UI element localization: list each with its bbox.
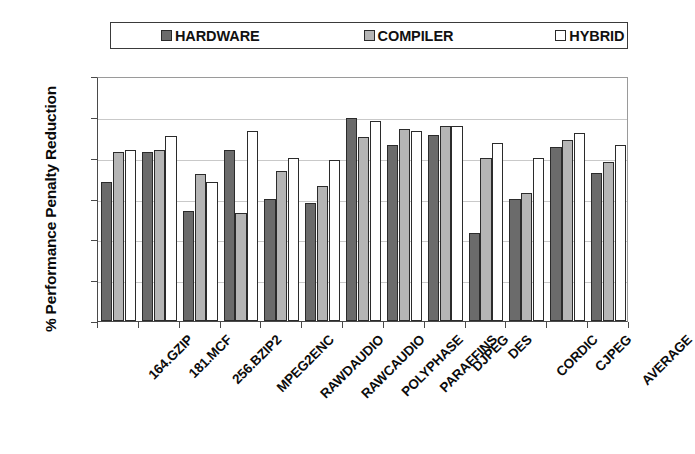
x-tick-mark (546, 322, 547, 328)
legend-entry-hybrid: HYBRID (555, 28, 624, 44)
bar-compiler-164-gzip (113, 152, 124, 321)
bar-compiler-paraffins (399, 129, 410, 321)
bar-hybrid-256-bzip2 (206, 182, 217, 321)
x-tick-label-des: DES (505, 332, 535, 362)
bar-hybrid-rawdaudio (288, 158, 299, 321)
bar-compiler-rawdaudio (276, 171, 287, 321)
y-axis-title: % Performance Penalty Reduction (42, 54, 60, 364)
bar-hybrid-181-mcf (165, 136, 176, 321)
legend-swatch-icon (364, 30, 375, 41)
bar-hybrid-cordic (533, 158, 544, 321)
bar-hardware-cordic (509, 199, 520, 322)
bar-compiler-des (480, 158, 491, 321)
x-tick-label-164-gzip: 164.GZIP (146, 332, 196, 382)
x-tick-label-256-bzip2: 256.BZIP2 (229, 332, 284, 387)
bar-hybrid-cjpeg (574, 133, 585, 321)
legend-swatch-icon (161, 30, 172, 41)
plot-area (97, 77, 628, 322)
x-tick-mark (424, 322, 425, 328)
bar-hardware-164-gzip (101, 182, 112, 321)
bar-compiler-average (603, 162, 614, 321)
bar-hardware-djpeg (428, 135, 439, 321)
legend-label: HYBRID (569, 28, 624, 44)
x-tick-label-cordic: CORDIC (553, 332, 600, 379)
legend-entry-hardware: HARDWARE (161, 28, 260, 44)
bar-hardware-rawcaudio (305, 203, 316, 321)
x-tick-mark (301, 322, 302, 328)
legend-label: COMPILER (378, 28, 454, 44)
bar-compiler-cjpeg (562, 140, 573, 321)
bar-hardware-average (591, 173, 602, 321)
x-tick-label-average: AVERAGE (638, 332, 694, 388)
bar-compiler-cordic (521, 193, 532, 321)
bar-compiler-rawcaudio (317, 186, 328, 321)
x-tick-mark (179, 322, 180, 328)
x-tick-mark (465, 322, 466, 328)
bar-hardware-181-mcf (142, 152, 153, 321)
x-tick-mark (138, 322, 139, 328)
bar-hardware-256-bzip2 (183, 211, 194, 321)
bar-compiler-polyphase (358, 137, 369, 321)
bar-hybrid-djpeg (451, 126, 462, 321)
chart-legend: HARDWARECOMPILERHYBRID (110, 22, 628, 49)
gridline (98, 119, 627, 120)
x-tick-label-cjpeg: CJPEG (592, 332, 634, 374)
bar-hardware-paraffins (387, 145, 398, 321)
bar-hybrid-polyphase (370, 121, 381, 321)
x-tick-mark (342, 322, 343, 328)
bar-hardware-polyphase (346, 118, 357, 321)
x-tick-mark (383, 322, 384, 328)
bar-hybrid-rawcaudio (329, 160, 340, 321)
bar-hardware-rawdaudio (264, 199, 275, 322)
bar-compiler-mpeg2enc (235, 213, 246, 321)
x-tick-mark (505, 322, 506, 328)
x-tick-mark (260, 322, 261, 328)
bar-hybrid-164-gzip (125, 150, 136, 322)
bar-hardware-des (469, 233, 480, 321)
bar-hardware-cjpeg (550, 147, 561, 321)
bar-compiler-181-mcf (154, 150, 165, 322)
bar-compiler-djpeg (440, 126, 451, 321)
bar-hardware-mpeg2enc (224, 150, 235, 322)
x-tick-mark (220, 322, 221, 328)
x-tick-mark (97, 322, 98, 328)
legend-entry-compiler: COMPILER (364, 28, 454, 44)
bar-hybrid-paraffins (411, 131, 422, 321)
legend-swatch-icon (555, 30, 566, 41)
bar-hybrid-mpeg2enc (247, 131, 258, 321)
x-tick-mark (628, 322, 629, 328)
x-tick-mark (587, 322, 588, 328)
bar-hybrid-des (492, 143, 503, 321)
legend-label: HARDWARE (175, 28, 260, 44)
bar-hybrid-average (615, 145, 626, 321)
bar-compiler-256-bzip2 (195, 174, 206, 321)
